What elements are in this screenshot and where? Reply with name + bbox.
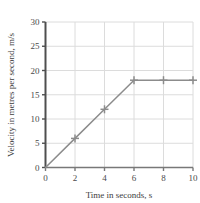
y-tick-label: 5 [35,138,40,148]
x-tick-label: 4 [102,173,107,183]
y-tick-label: 10 [31,114,41,124]
y-tick-label: 0 [35,163,40,173]
y-tick-label: 30 [31,17,41,27]
x-tick-label: 0 [43,173,48,183]
chart-canvas: 051015202530 0246810 Time in seconds, s … [0,0,200,203]
chart-background [0,0,200,203]
x-tick-label: 2 [73,173,78,183]
x-tick-label: 8 [161,173,166,183]
y-axis-title: Velocity in metres per second, m/s [6,33,16,157]
y-tick-label: 15 [31,90,41,100]
y-tick-label: 20 [31,66,41,76]
x-tick-label: 10 [189,173,199,183]
x-axis-title: Time in seconds, s [86,190,153,200]
velocity-time-chart: 051015202530 0246810 Time in seconds, s … [0,0,200,203]
x-tick-label: 6 [132,173,137,183]
y-tick-label: 25 [31,41,41,51]
